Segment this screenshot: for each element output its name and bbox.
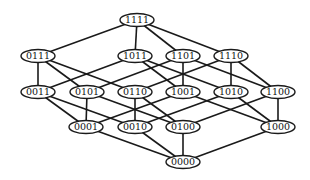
node-1110: 1110 [214, 50, 248, 63]
node-0111: 0111 [21, 50, 55, 63]
node-1111: 1111 [120, 14, 154, 27]
node-label: 0100 [171, 121, 195, 132]
node-label: 0110 [123, 86, 147, 97]
node-1011: 1011 [118, 50, 152, 63]
node-0011: 0011 [21, 86, 55, 99]
node-label: 1110 [219, 50, 243, 61]
node-label: 0001 [74, 121, 98, 132]
node-label: 0011 [26, 86, 50, 97]
node-0000: 0000 [166, 156, 200, 169]
node-label: 1000 [266, 121, 290, 132]
node-label: 1101 [171, 50, 195, 61]
node-label: 0000 [171, 156, 195, 167]
node-label: 0010 [123, 121, 147, 132]
node-1101: 1101 [166, 50, 200, 63]
node-1000: 1000 [261, 121, 295, 134]
node-0110: 0110 [118, 86, 152, 99]
node-label: 1010 [219, 86, 243, 97]
node-0001: 0001 [69, 121, 103, 134]
node-label: 1011 [123, 50, 147, 61]
hasse-diagram: 1000100110101011110011011110111101110011… [0, 0, 310, 180]
node-label: 1111 [125, 14, 149, 25]
node-label: 1100 [266, 86, 290, 97]
edge-1000-0000 [183, 127, 278, 162]
node-label: 0101 [75, 86, 99, 97]
node-1001: 1001 [166, 86, 200, 99]
node-1010: 1010 [214, 86, 248, 99]
node-label: 1001 [171, 86, 195, 97]
node-1100: 1100 [261, 86, 295, 99]
node-label: 0111 [26, 50, 50, 61]
node-0100: 0100 [166, 121, 200, 134]
node-0010: 0010 [118, 121, 152, 134]
node-0101: 0101 [70, 86, 104, 99]
